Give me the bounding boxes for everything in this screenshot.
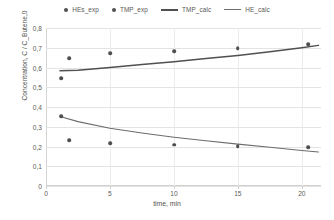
x-axis-tick-label: 0 <box>44 190 48 197</box>
x-axis-tick-mark <box>238 186 239 189</box>
circle-marker-icon <box>112 8 116 12</box>
data-point-hes-exp <box>236 144 240 148</box>
x-axis-tick-mark <box>302 186 303 189</box>
x-axis-tick-label: 10 <box>170 190 177 197</box>
curve-he-calc <box>60 116 318 152</box>
legend-label: TMP_exp <box>120 6 148 13</box>
chart-figure: HEs_exp TMP_exp TMP_calc HE_calc Concent… <box>0 0 334 220</box>
legend-item-he-calc: HE_calc <box>224 6 270 13</box>
legend-label: TMP_calc <box>182 6 211 13</box>
y-axis-tick-label: 0,1 <box>33 163 42 170</box>
y-gridline <box>46 186 321 187</box>
data-point-tmp-exp <box>236 47 240 51</box>
plot-area: 00,10,20,30,40,50,60,70,805101520 <box>46 28 321 186</box>
legend-label: HEs_exp <box>72 6 99 13</box>
curve-layer <box>46 28 321 186</box>
legend-item-tmp-calc: TMP_calc <box>161 6 211 13</box>
curve-tmp-calc <box>60 45 318 70</box>
chart-legend: HEs_exp TMP_exp TMP_calc HE_calc <box>0 6 334 13</box>
x-axis-tick-label: 20 <box>298 190 305 197</box>
y-axis-tick-label: 0,7 <box>33 44 42 51</box>
y-axis-tick-label: 0,3 <box>33 123 42 130</box>
data-point-hes-exp <box>60 115 64 119</box>
y-axis-tick-label: 0,6 <box>33 64 42 71</box>
data-point-hes-exp <box>67 138 71 142</box>
line-marker-icon <box>224 9 241 10</box>
x-axis-tick-mark <box>174 186 175 189</box>
y-axis-tick-label: 0,8 <box>33 25 42 32</box>
y-axis-tick-label: 0,4 <box>33 104 42 111</box>
y-axis-title: Concentration, C / C_Butene,0 <box>21 0 28 136</box>
y-axis-tick-label: 0,5 <box>33 84 42 91</box>
legend-item-hes-exp: HEs_exp <box>64 6 99 13</box>
y-axis-tick-label: 0,2 <box>33 143 42 150</box>
x-axis-tick-mark <box>110 186 111 189</box>
x-axis-tick-label: 15 <box>234 190 241 197</box>
y-axis-tick-label: 0 <box>38 183 42 190</box>
line-marker-icon <box>161 9 178 11</box>
data-point-hes-exp <box>172 143 176 147</box>
x-axis-tick-mark <box>46 186 47 189</box>
data-point-tmp-exp <box>306 43 310 47</box>
data-point-hes-exp <box>108 142 112 146</box>
data-point-hes-exp <box>306 145 310 149</box>
data-point-tmp-exp <box>67 56 71 60</box>
circle-marker-icon <box>64 8 68 12</box>
data-point-tmp-exp <box>172 50 176 54</box>
data-point-tmp-exp <box>108 51 112 55</box>
data-point-tmp-exp <box>60 77 64 81</box>
legend-item-tmp-exp: TMP_exp <box>112 6 148 13</box>
legend-label: HE_calc <box>245 6 270 13</box>
x-axis-title: time, min <box>0 200 334 207</box>
x-axis-tick-label: 5 <box>108 190 112 197</box>
